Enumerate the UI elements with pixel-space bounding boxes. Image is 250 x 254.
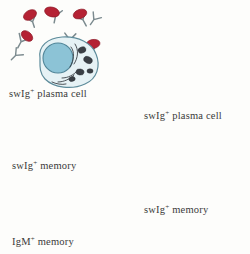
swIg-plus-plasma-cell-left (40, 37, 98, 88)
antibody-icon (8, 48, 24, 64)
figure-canvas (0, 0, 250, 254)
antigen-icon (44, 5, 61, 18)
label-swig-plasma-cell-left: swIg+ plasma cell (9, 88, 87, 99)
label-igm-memory-left: IgM+ memory (12, 236, 74, 247)
plasma-cell-nucleus (43, 43, 73, 73)
label-swig-memory-right: swIg+ memory (144, 204, 208, 215)
antigen-icon (72, 7, 88, 20)
label-swig-plasma-cell-right: swIg+ plasma cell (144, 110, 222, 121)
label-swig-memory-left: swIg+ memory (12, 160, 76, 171)
b-cell-differentiation-figure: swIg+ plasma cell swIg+ memory IgM+ memo… (0, 0, 250, 254)
antibody-icon (86, 12, 101, 28)
antigen-icon (22, 8, 39, 23)
